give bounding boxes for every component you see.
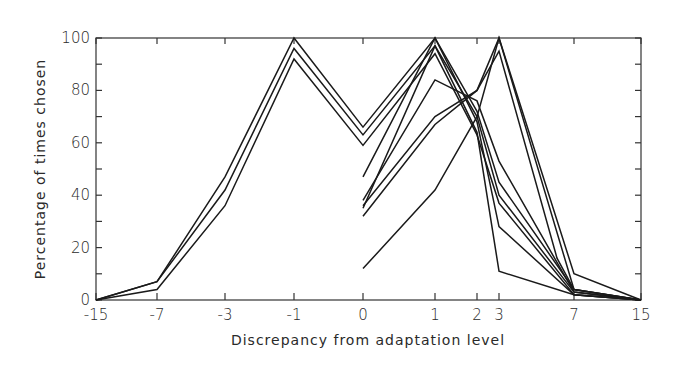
- line-chart: 020406080100 -15-7-3-10123715 Discrepanc…: [0, 0, 680, 367]
- x-tick-label: -1: [287, 306, 302, 324]
- y-axis-title: Percentage of times chosen: [32, 59, 48, 279]
- y-tick-label: 100: [61, 29, 90, 47]
- series-lines: [96, 38, 641, 300]
- series-line: [363, 38, 641, 300]
- y-tick-label: 20: [71, 239, 90, 257]
- y-tick-label: 80: [71, 81, 90, 99]
- x-tick-label: 2: [472, 306, 482, 324]
- x-tick-label: -3: [218, 306, 233, 324]
- x-tick-label: 0: [358, 306, 368, 324]
- x-tick-label: -15: [84, 306, 109, 324]
- x-tick-label: 3: [494, 306, 504, 324]
- x-tick-label: 1: [430, 306, 440, 324]
- series-line: [363, 38, 641, 300]
- y-tick-label: 60: [71, 134, 90, 152]
- x-tick-label: -7: [150, 306, 165, 324]
- y-tick-label: 40: [71, 186, 90, 204]
- series-line: [363, 38, 641, 300]
- x-tick-label: 7: [569, 306, 579, 324]
- x-tick-label: 15: [631, 306, 650, 324]
- x-axis-title: Discrepancy from adaptation level: [231, 332, 505, 348]
- series-line: [363, 51, 641, 300]
